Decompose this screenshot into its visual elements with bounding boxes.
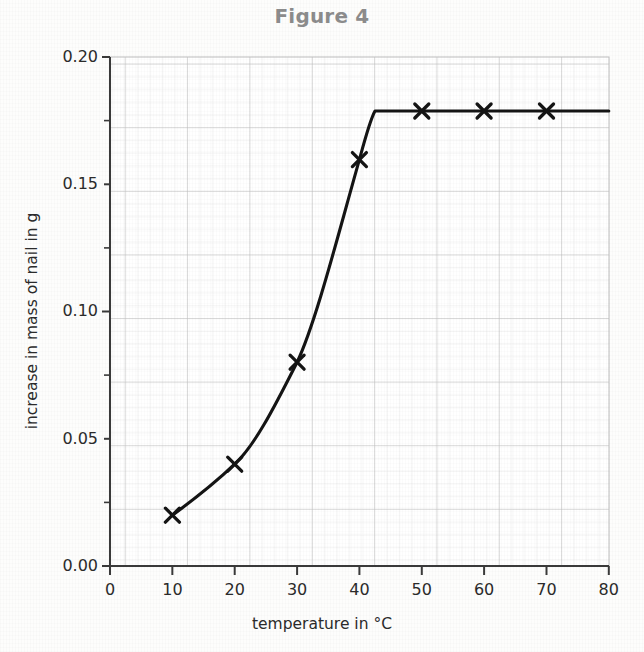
figure-container: Figure 4 bbox=[0, 0, 644, 652]
y-tick-label: 0.00 bbox=[18, 556, 98, 575]
x-axis-title: temperature in °C bbox=[0, 615, 644, 633]
x-tick-label: 10 bbox=[142, 580, 202, 599]
x-tick-label: 40 bbox=[329, 580, 389, 599]
x-tick-label: 80 bbox=[579, 580, 639, 599]
plot-area: 0.20 0.15 0.10 0.05 0.00 0 10 20 30 40 5… bbox=[0, 0, 644, 652]
y-tick-label: 0.20 bbox=[18, 47, 98, 66]
x-axis-ticks bbox=[110, 566, 609, 575]
chart-svg bbox=[0, 0, 644, 652]
chart-gridlines bbox=[110, 57, 609, 566]
y-axis-ticks bbox=[102, 57, 110, 566]
x-tick-label: 0 bbox=[80, 580, 140, 599]
x-tick-label: 20 bbox=[205, 580, 265, 599]
x-tick-label: 60 bbox=[454, 580, 514, 599]
x-tick-label: 30 bbox=[267, 580, 327, 599]
x-tick-label: 70 bbox=[517, 580, 577, 599]
x-tick-label: 50 bbox=[392, 580, 452, 599]
y-axis-title: increase in mass of nail in g bbox=[23, 171, 41, 471]
